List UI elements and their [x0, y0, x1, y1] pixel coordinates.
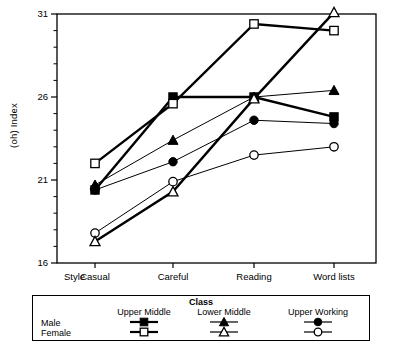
x-category-label: Word lists: [313, 271, 355, 282]
legend-swatch: [304, 318, 332, 326]
marker-filled-square: [91, 186, 99, 194]
marker-open-square: [91, 159, 99, 167]
marker-filled-circle: [250, 116, 258, 124]
marker-open-square: [169, 99, 177, 107]
marker-open-square: [330, 26, 338, 34]
legend-swatch: [304, 328, 332, 336]
series-upper-working-male: [95, 120, 334, 190]
marker-open-triangle: [329, 7, 339, 16]
series-line: [95, 120, 334, 190]
x-axis-title: Style: [64, 271, 85, 282]
series-line: [95, 90, 334, 185]
marker-filled-circle: [169, 158, 177, 166]
legend-swatch: [130, 318, 158, 326]
series-markers-upper-working-male: [91, 116, 338, 194]
marker-open-square: [250, 20, 258, 28]
series-lower-middle-female: [95, 12, 334, 241]
marker-filled-square: [140, 318, 148, 326]
marker-filled-triangle: [329, 85, 339, 94]
marker-filled-square: [330, 113, 338, 121]
y-tick-label: 26: [37, 91, 48, 102]
marker-open-circle: [169, 177, 177, 185]
plot-frame: [57, 14, 376, 263]
marker-filled-triangle: [168, 135, 178, 144]
marker-filled-circle: [314, 318, 322, 326]
series-markers-lower-middle-female: [90, 7, 339, 245]
series-upper-working-female: [95, 147, 334, 233]
marker-open-circle: [250, 151, 258, 159]
legend: Class Upper Middle Lower Middle Upper Wo…: [32, 295, 370, 341]
series-line: [95, 147, 334, 233]
series-lower-middle-male: [95, 90, 334, 185]
chart-figure: (oh) Index 16212631CasualCarefulReadingW…: [0, 0, 402, 348]
x-category-label: Careful: [158, 271, 189, 282]
marker-open-circle: [330, 143, 338, 151]
plot-area: 16212631CasualCarefulReadingWord listsSt…: [0, 0, 402, 292]
y-tick-label: 16: [37, 257, 48, 268]
x-category-label: Reading: [236, 271, 271, 282]
legend-swatch: [130, 328, 158, 336]
legend-swatch: [210, 317, 238, 325]
legend-markers: [33, 296, 371, 342]
series-markers-upper-working-female: [91, 143, 338, 238]
y-tick-label: 31: [37, 8, 48, 19]
marker-open-square: [140, 328, 148, 336]
legend-swatch: [210, 327, 238, 335]
series-line: [95, 12, 334, 241]
marker-open-circle: [314, 328, 322, 336]
y-tick-label: 21: [37, 174, 48, 185]
